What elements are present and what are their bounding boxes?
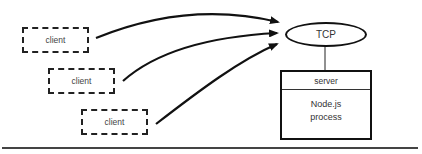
server-body-line1: Node.js	[311, 98, 342, 111]
server-body-line2: process	[310, 111, 342, 124]
client-box-2: client	[48, 68, 115, 94]
client-box-1: client	[22, 27, 89, 53]
architecture-diagram: client client client TCP server Node.js …	[0, 0, 422, 154]
client-box-3: client	[81, 109, 148, 135]
client-label: client	[72, 76, 92, 86]
arrow-client2-to-tcp	[123, 33, 277, 81]
server-box: server Node.js process	[280, 70, 372, 140]
bottom-rule	[2, 147, 418, 149]
client-label: client	[105, 117, 125, 127]
server-label: server	[314, 76, 338, 86]
tcp-label: TCP	[316, 29, 336, 40]
client-label: client	[46, 35, 66, 45]
server-body: Node.js process	[282, 90, 370, 138]
tcp-ellipse: TCP	[285, 22, 367, 47]
server-header: server	[282, 72, 370, 90]
arrow-client3-to-tcp	[156, 44, 277, 124]
